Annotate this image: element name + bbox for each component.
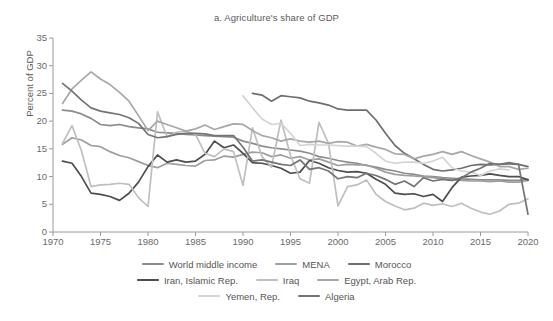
x-tick-label: 1990 bbox=[220, 236, 266, 248]
legend-row: Iran, Islamic Rep.IraqEgypt, Arab Rep. bbox=[0, 272, 553, 288]
series-line bbox=[63, 83, 529, 214]
legend-color-swatch bbox=[137, 279, 159, 281]
legend-color-swatch bbox=[256, 279, 278, 281]
x-tick-label: 2005 bbox=[363, 236, 409, 248]
x-tick-label: 2015 bbox=[458, 236, 504, 248]
y-tick-label: 25 bbox=[13, 88, 47, 98]
y-axis-tick-labels: 05101520253035 bbox=[11, 38, 47, 232]
legend-item[interactable]: Yemen, Rep. bbox=[198, 291, 280, 302]
legend-color-swatch bbox=[275, 263, 297, 265]
legend-label: MENA bbox=[302, 259, 329, 270]
y-tick-label: 10 bbox=[13, 172, 47, 182]
legend-color-swatch bbox=[198, 295, 220, 297]
plot-area bbox=[53, 38, 528, 232]
x-axis-tick-labels: 1970197519801985199019952000200520102015… bbox=[53, 236, 528, 250]
legend-row: World middle incomeMENAMorocco bbox=[0, 256, 553, 272]
chart-title: a. Agriculture's share of GDP bbox=[0, 12, 553, 23]
chart-figure: a. Agriculture's share of GDP Percent of… bbox=[0, 0, 553, 321]
series-line bbox=[253, 93, 529, 171]
legend-label: Iraq bbox=[283, 275, 299, 286]
y-tick-label: 15 bbox=[13, 144, 47, 154]
chart-legend: World middle incomeMENAMoroccoIran, Isla… bbox=[0, 256, 553, 314]
x-tick-label: 1995 bbox=[268, 236, 314, 248]
legend-color-swatch bbox=[348, 263, 370, 265]
legend-label: World middle income bbox=[169, 259, 258, 270]
x-tick-label: 1970 bbox=[30, 236, 76, 248]
legend-item[interactable]: MENA bbox=[275, 259, 329, 270]
legend-label: Egypt, Arab Rep. bbox=[344, 275, 416, 286]
axis-lines bbox=[49, 38, 528, 236]
legend-label: Yemen, Rep. bbox=[225, 291, 280, 302]
legend-color-swatch bbox=[317, 279, 339, 281]
x-tick-label: 1980 bbox=[125, 236, 171, 248]
y-tick-label: 35 bbox=[13, 33, 47, 43]
legend-item[interactable]: Algeria bbox=[298, 291, 355, 302]
legend-item[interactable]: Iran, Islamic Rep. bbox=[137, 275, 238, 286]
legend-label: Morocco bbox=[375, 259, 411, 270]
legend-item[interactable]: Iraq bbox=[256, 275, 299, 286]
legend-item[interactable]: Egypt, Arab Rep. bbox=[317, 275, 416, 286]
legend-item[interactable]: World middle income bbox=[142, 259, 258, 270]
series-lines bbox=[63, 72, 529, 214]
x-tick-label: 1985 bbox=[173, 236, 219, 248]
legend-color-swatch bbox=[142, 263, 164, 265]
plot-svg bbox=[53, 38, 528, 232]
y-tick-label: 30 bbox=[13, 61, 47, 71]
x-tick-label: 2020 bbox=[505, 236, 551, 248]
legend-row: Yemen, Rep.Algeria bbox=[0, 288, 553, 304]
series-line bbox=[63, 138, 529, 182]
y-tick-label: 5 bbox=[13, 199, 47, 209]
x-tick-label: 2000 bbox=[315, 236, 361, 248]
legend-color-swatch bbox=[298, 295, 320, 297]
series-line bbox=[243, 96, 509, 176]
legend-item[interactable]: Morocco bbox=[348, 259, 411, 270]
y-tick-label: 20 bbox=[13, 116, 47, 126]
x-tick-label: 2010 bbox=[410, 236, 456, 248]
x-tick-label: 1975 bbox=[78, 236, 124, 248]
legend-label: Iran, Islamic Rep. bbox=[164, 275, 238, 286]
legend-label: Algeria bbox=[325, 291, 355, 302]
